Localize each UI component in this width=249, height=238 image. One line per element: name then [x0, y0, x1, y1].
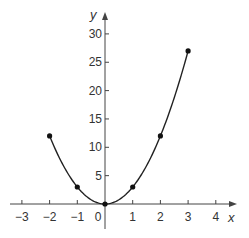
x-axis-arrow-icon [229, 201, 237, 207]
y-axis: 51015202530 [89, 12, 109, 229]
parabola-chart: −3−2−101234 51015202530 x y [0, 0, 249, 238]
y-tick-label: 5 [95, 169, 102, 183]
x-tick-label: 1 [129, 210, 136, 224]
y-tick-label: 20 [89, 84, 103, 98]
y-axis-arrow-icon [102, 12, 108, 20]
y-tick-label: 15 [89, 112, 103, 126]
data-point [102, 201, 107, 206]
data-point [186, 48, 191, 53]
x-tick-label: −1 [70, 210, 84, 224]
x-tick-label: −3 [15, 210, 29, 224]
x-axis-label: x [227, 210, 235, 225]
x-axis: −3−2−101234 [10, 200, 237, 224]
data-point [47, 133, 52, 138]
x-tick-label: 0 [95, 210, 102, 224]
x-tick-label: −2 [43, 210, 57, 224]
y-tick-label: 25 [89, 55, 103, 69]
y-tick-label: 10 [89, 140, 103, 154]
data-point [130, 184, 135, 189]
y-axis-label: y [89, 7, 98, 22]
curve [50, 51, 189, 204]
x-tick-label: 2 [157, 210, 164, 224]
y-tick-label: 30 [89, 27, 103, 41]
data-point [158, 133, 163, 138]
x-tick-label: 4 [212, 210, 219, 224]
x-tick-label: 3 [185, 210, 192, 224]
data-points [47, 48, 191, 206]
data-point [75, 184, 80, 189]
